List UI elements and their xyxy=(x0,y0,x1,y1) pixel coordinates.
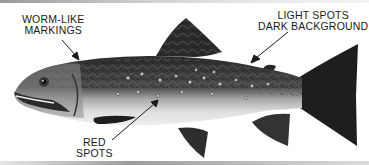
label-line: DARK BACKGROUND xyxy=(258,21,368,32)
fish-head xyxy=(14,63,84,118)
tail-fin xyxy=(298,44,358,146)
label-worm-like-markings: WORM-LIKE MARKINGS xyxy=(22,14,84,36)
label-red-spots: RED SPOTS xyxy=(76,137,113,159)
label-light-spots-dark-background: LIGHT SPOTS DARK BACKGROUND xyxy=(258,10,368,32)
arrow-light xyxy=(256,32,288,58)
trout-diagram: WORM-LIKE MARKINGS LIGHT SPOTS DARK BACK… xyxy=(0,0,369,165)
arrow-worm xyxy=(62,40,76,56)
label-line: SPOTS xyxy=(76,148,113,159)
bottom-border xyxy=(0,161,369,165)
anal-fin xyxy=(252,114,290,146)
pelvic-fin xyxy=(178,128,208,159)
label-line: MARKINGS xyxy=(22,25,84,36)
